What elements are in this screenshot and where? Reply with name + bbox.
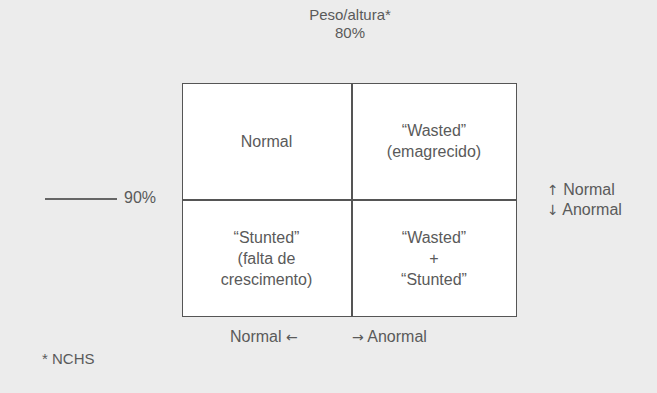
arrow-down-icon: ↓ [547, 202, 559, 218]
weight-height-title: Peso/altura* [250, 6, 450, 24]
cell-stunted-label: “Stunted” [234, 227, 300, 248]
legend-normal-label: Normal [563, 181, 615, 198]
cell-wasted: “Wasted” (emagrecido) [351, 83, 517, 199]
bottom-anormal-label: → Anormal [352, 328, 427, 346]
arrow-left-icon: ← [286, 329, 298, 345]
threshold-80-label: 80% [250, 24, 450, 42]
cell-stunted: “Stunted” (falta de crescimento) [182, 199, 351, 317]
legend-normal-row: ↑ Normal [547, 180, 622, 200]
cell-wasted-stunted-line3: “Stunted” [401, 269, 467, 290]
cell-wasted-stunted-plus: + [429, 248, 438, 269]
right-legend: ↑ Normal ↓ Anormal [547, 180, 622, 220]
cell-wasted-label: “Wasted” [402, 120, 466, 141]
footnote-nchs: * NCHS [42, 350, 95, 367]
cell-normal-label: Normal [241, 131, 293, 152]
cell-wasted-stunted: “Wasted” + “Stunted” [351, 199, 517, 317]
cell-normal: Normal [182, 83, 351, 199]
bottom-anormal-text: Anormal [367, 328, 427, 345]
arrow-right-icon: → [352, 329, 364, 345]
legend-anormal-row: ↓ Anormal [547, 200, 622, 220]
cell-stunted-translation-1: (falta de [238, 248, 296, 269]
bottom-normal-text: Normal [230, 328, 282, 345]
threshold-90-line [45, 198, 117, 200]
cell-wasted-stunted-line1: “Wasted” [402, 227, 466, 248]
bottom-normal-label: Normal ← [230, 328, 298, 346]
cell-wasted-translation: (emagrecido) [387, 141, 481, 162]
top-axis-label: Peso/altura* 80% [250, 6, 450, 42]
threshold-90-label: 90% [124, 189, 156, 207]
arrow-up-icon: ↑ [547, 182, 559, 198]
legend-anormal-label: Anormal [562, 201, 622, 218]
cell-stunted-translation-2: crescimento) [221, 269, 313, 290]
